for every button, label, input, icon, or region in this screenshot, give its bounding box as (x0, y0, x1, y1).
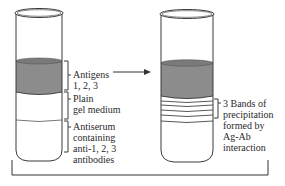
band-line (161, 115, 213, 117)
precipitation-bands (161, 101, 213, 123)
antigen-surface (161, 60, 213, 66)
antigen-layer (16, 61, 62, 95)
arrow-head-icon (144, 69, 151, 75)
diagram-canvas (0, 0, 285, 186)
band-line (161, 105, 213, 107)
antiserum-bracket (64, 121, 68, 152)
antigen-surface (16, 58, 62, 64)
label-precipitation-bands: 3 Bands of precipitation formed by Ag-Ab… (223, 98, 274, 153)
band-line (161, 101, 213, 103)
label-antiserum: Antiserum containing anti-1, 2, 3 antibo… (73, 121, 116, 165)
enclosing-bracket (12, 160, 268, 175)
right-test-tube (160, 10, 221, 163)
label-antigens: Antigens 1, 2, 3 (73, 69, 109, 91)
antigens-bracket (64, 61, 68, 90)
tube-rim-inner (17, 10, 61, 17)
label-plain-gel: Plain gel medium (73, 93, 121, 115)
bands-bracket (214, 99, 218, 118)
gel-antiserum-boundary (16, 120, 62, 122)
left-test-tube (15, 9, 71, 162)
antigen-layer (161, 63, 213, 99)
band-line (161, 121, 213, 123)
tube-rim-inner (162, 11, 212, 18)
plain-gel-bracket (64, 92, 68, 119)
band-line (161, 110, 213, 112)
transition-arrow (113, 69, 151, 75)
